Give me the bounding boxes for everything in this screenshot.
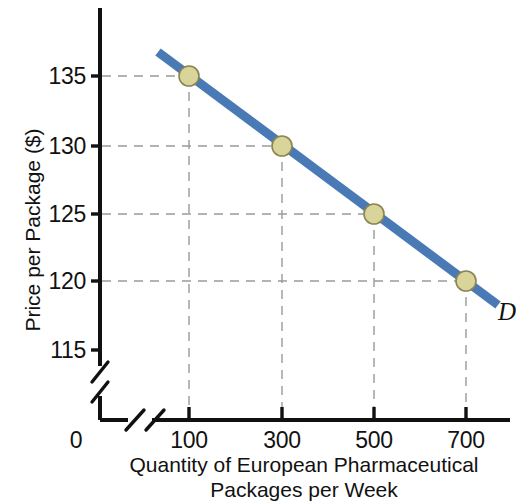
x-axis-title-line-1: Quantity of European Pharmaceutical xyxy=(129,453,478,476)
x-tick-label-500: 500 xyxy=(355,427,392,454)
axes-group xyxy=(100,8,510,420)
data-point-100-135 xyxy=(179,66,199,86)
y-axis-title: Price per Package ($) xyxy=(21,105,45,355)
y-tick-label-135: 135 xyxy=(30,63,86,90)
x-axis-title: Quantity of European Pharmaceutical Pack… xyxy=(104,452,504,502)
x-tick-label-300: 300 xyxy=(263,427,300,454)
x-tick-label-100: 100 xyxy=(170,427,207,454)
demand-curve-line xyxy=(158,52,498,305)
x-axis-title-line-2: Packages per Week xyxy=(104,477,504,502)
x-tick-label-700: 700 xyxy=(447,427,484,454)
origin-tick-label: 0 xyxy=(70,427,83,454)
demand-curve-label: D xyxy=(498,298,516,326)
x-axis-break-mark-left xyxy=(126,410,144,430)
data-point-700-120 xyxy=(456,271,476,291)
data-point-300-130 xyxy=(272,136,292,156)
tick-marks-group xyxy=(91,76,466,419)
gridlines-group xyxy=(102,76,466,418)
data-point-500-125 xyxy=(364,204,384,224)
